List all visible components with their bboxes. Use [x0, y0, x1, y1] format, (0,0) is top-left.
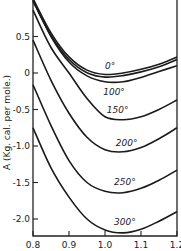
x-tick-label: 1.0 — [98, 240, 113, 250]
curves — [33, 0, 177, 233]
y-tick-label: -1.5 — [12, 178, 30, 188]
y-tick-label: -0.5 — [12, 105, 30, 115]
curve-label: 200° — [116, 138, 138, 148]
curve-300deg — [33, 128, 177, 233]
y-tick-label: -1.0 — [12, 141, 30, 151]
axes: 0.50-0.5-1.0-1.5-2.00.80.91.01.11.2 — [12, 0, 181, 250]
curve-label: 100° — [103, 87, 125, 97]
curve-label: 150° — [107, 105, 129, 115]
axis-frame — [33, 0, 177, 236]
x-tick-label: 1.1 — [134, 240, 148, 250]
chart: 0.50-0.5-1.0-1.5-2.00.80.91.01.11.2 0°10… — [0, 0, 181, 251]
x-tick-label: 0.8 — [26, 240, 41, 250]
x-tick-label: 0.9 — [62, 240, 77, 250]
y-tick-label: 0 — [24, 68, 30, 78]
curve-label: 300° — [114, 217, 136, 227]
curve-labels: 0°100°150°200°250°300° — [103, 61, 137, 227]
curve-label: 0° — [105, 61, 115, 71]
x-tick-label: 1.2 — [170, 240, 181, 250]
y-axis-label: A (Kg. cal. per mole.) — [2, 75, 12, 170]
y-tick-label: -2.0 — [12, 214, 30, 224]
curve-label: 250° — [114, 177, 136, 187]
y-tick-label: 0.5 — [16, 32, 30, 42]
curve-250deg — [33, 85, 177, 193]
